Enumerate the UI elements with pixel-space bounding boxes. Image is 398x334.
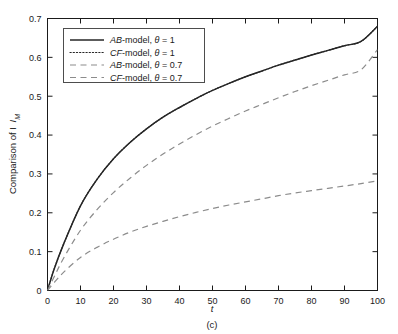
x-tick-label: 10 [75, 296, 85, 306]
x-tick-label: 0 [45, 296, 50, 306]
y-axis-title-text: Comparison of I [7, 127, 18, 194]
y-axis-title-subscript: M [14, 114, 21, 120]
chart-legend: AB-model, θ = 1CF-model, θ = 1AB-model, … [64, 29, 205, 83]
figure-caption: (c) [206, 319, 217, 330]
x-tick-label: 70 [273, 296, 283, 306]
y-tick-label: 0.3 [29, 169, 42, 179]
x-tick-label: 100 [370, 296, 385, 306]
x-tick-label: 20 [108, 296, 118, 306]
x-tick-label: 60 [240, 296, 250, 306]
y-tick-label: 0.1 [29, 247, 42, 257]
legend-label-2: CF-model, θ = 1 [110, 48, 175, 58]
comparison-line-chart: 00.10.20.30.40.50.60.7 01020304050607080… [0, 0, 398, 334]
y-tick-label: 0.7 [29, 14, 42, 24]
x-tick-label: 30 [141, 296, 151, 306]
x-tick-label: 90 [339, 296, 349, 306]
y-tick-label: 0.5 [29, 92, 42, 102]
x-tick-label: 80 [306, 296, 316, 306]
legend-label-1: AB-model, θ = 1 [109, 35, 175, 45]
y-tick-label: 0.4 [29, 130, 42, 140]
x-axis-title: t [211, 303, 214, 314]
y-tick-label: 0 [36, 286, 41, 296]
y-tick-label: 0.6 [29, 53, 42, 63]
legend-label-3: AB-model, θ = 0.7 [109, 60, 182, 70]
figure-panel-c: 00.10.20.30.40.50.60.7 01020304050607080… [0, 0, 398, 334]
x-tick-label: 40 [174, 296, 184, 306]
legend-label-4: CF-model, θ = 0.7 [110, 73, 182, 83]
y-tick-label: 0.2 [29, 208, 42, 218]
